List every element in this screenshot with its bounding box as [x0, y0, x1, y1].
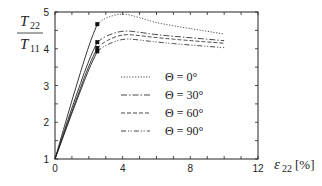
data-marker [95, 22, 99, 26]
x-tick-label: 4 [120, 163, 126, 174]
y-tick-label: 3 [43, 81, 49, 92]
xlabel-unit: [%] [295, 157, 315, 172]
data-marker [95, 49, 99, 53]
xlabel-sub: 22 [282, 163, 292, 174]
data-marker [95, 40, 99, 44]
axis-ticks: 0481212345 [43, 7, 264, 174]
series-line-solid [55, 51, 97, 159]
x-tick-label: 8 [188, 163, 194, 174]
legend-label: Θ = 60° [165, 106, 203, 120]
ylabel-numerator-sub: 22 [30, 20, 40, 31]
y-tick-label: 4 [43, 44, 49, 55]
y-tick-label: 1 [43, 154, 49, 165]
x-tick-label: 0 [52, 163, 58, 174]
series-line [97, 39, 224, 51]
ylabel-numerator: T [20, 13, 30, 29]
y-tick-label: 5 [43, 7, 49, 18]
series-line [97, 14, 224, 34]
legend-label: Θ = 0° [165, 70, 197, 84]
plot-frame [55, 12, 258, 159]
ylabel-denominator-sub: 11 [30, 43, 40, 54]
ylabel-denominator: T [20, 36, 30, 52]
y-tick-label: 2 [43, 117, 49, 128]
legend-label: Θ = 30° [165, 88, 203, 102]
legend: Θ = 0°Θ = 30°Θ = 60°Θ = 90° [121, 70, 203, 138]
y-axis-label: T 22 T 11 [17, 13, 43, 54]
x-tick-label: 12 [252, 163, 264, 174]
legend-label: Θ = 90° [165, 124, 203, 138]
x-axis-label: ε 22 [%] [274, 156, 315, 174]
xlabel-symbol: ε [274, 156, 280, 172]
chart: 0481212345 Θ = 0°Θ = 30°Θ = 60°Θ = 90° T… [0, 0, 322, 186]
series-line [97, 31, 224, 42]
